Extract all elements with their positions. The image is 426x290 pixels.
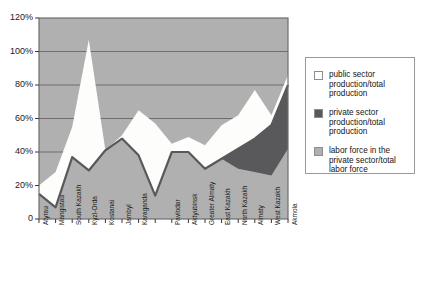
x-axis-tick-label: Akmola <box>291 203 298 225</box>
y-axis-tick-label: 20% <box>0 180 33 190</box>
x-axis-tick-label: Aktyubinsk <box>191 194 198 225</box>
legend-entry-labor-force: labor force in the private sector/total … <box>314 146 415 175</box>
x-axis-tick-label: Pavlodar <box>174 199 181 225</box>
x-axis-tick-label: West Kazakh <box>274 187 281 225</box>
y-axis-tick-label: 100% <box>0 46 33 56</box>
legend-label-public-sector: public sector production/total productio… <box>329 70 415 99</box>
legend-label-labor-force: labor force in the private sector/total … <box>329 146 415 175</box>
legend-entry-private-sector: private sector production/total producti… <box>314 108 415 137</box>
legend-swatch-labor-force <box>314 147 323 156</box>
x-axis-tick-label: Mangistau <box>58 195 65 225</box>
y-axis-tick-label: 120% <box>0 12 33 22</box>
x-axis-tick-label: Atyrau <box>42 206 49 225</box>
x-axis-tick-label: Karaganda <box>141 193 148 225</box>
x-axis-tick-label: Greater Almaty <box>208 182 215 225</box>
x-axis-tick-label: Kostanai <box>108 200 115 225</box>
legend-swatch-public-sector <box>314 71 323 80</box>
chart-legend: public sector production/total productio… <box>305 57 415 174</box>
x-axis-tick-label: Kyzl-Orda <box>91 196 98 225</box>
legend-label-private-sector: private sector production/total producti… <box>329 108 415 137</box>
x-axis-tick-label: North Kazakh <box>241 186 248 225</box>
x-axis-tick-label: East Kazakh <box>224 189 231 226</box>
x-axis-tick-label: Jambyl <box>125 204 132 225</box>
y-axis-tick-label: 80% <box>0 79 33 89</box>
y-axis-tick-label: 40% <box>0 146 33 156</box>
y-axis-tick-label: 0 <box>0 213 33 223</box>
x-axis-tick-label: South Kazakh <box>75 185 82 225</box>
legend-entry-public-sector: public sector production/total productio… <box>314 70 415 99</box>
legend-swatch-private-sector <box>314 109 323 118</box>
chart-figure: 120%100%80%60%40%20%0 AtyrauMangistauSou… <box>0 0 426 290</box>
y-axis-tick-label: 60% <box>0 113 33 123</box>
x-axis-tick-label: Almaty <box>257 205 264 225</box>
